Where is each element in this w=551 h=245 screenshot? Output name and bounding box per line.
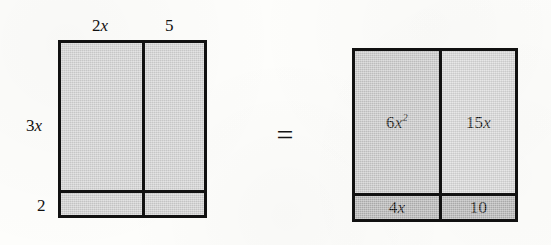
stipple-texture (145, 193, 204, 215)
right-cell-15x: 15x (442, 51, 515, 193)
left-height-label-3x: 3x (26, 117, 42, 134)
left-width-label-5: 5 (165, 17, 174, 34)
right-row-bottom: 4x 10 (355, 193, 515, 219)
right-area-model: 6x2 15x 4x 10 (352, 48, 518, 222)
right-cell-label-4x: 4x (389, 199, 405, 216)
right-cell-6x-squared: 6x2 (355, 51, 442, 193)
left-cell-bottom-right (145, 193, 204, 215)
left-row-top (61, 43, 204, 190)
figure-canvas: 2x 5 3x 2 = 6x2 (0, 0, 551, 245)
right-row-top: 6x2 15x (355, 51, 515, 193)
left-cell-top-right (145, 43, 204, 190)
right-cell-label-6x-squared: 6x2 (386, 114, 408, 131)
left-cell-bottom-left (61, 193, 145, 215)
left-area-model (58, 40, 207, 218)
stipple-texture (61, 193, 142, 215)
equals-sign: = (272, 118, 298, 152)
left-width-label-2x: 2x (92, 17, 108, 34)
stipple-texture (145, 43, 204, 190)
right-cell-4x: 4x (355, 196, 442, 219)
left-height-label-2: 2 (37, 197, 46, 214)
left-row-bottom (61, 190, 204, 215)
stipple-texture (61, 43, 142, 190)
right-cell-label-10: 10 (470, 199, 487, 216)
right-cell-10: 10 (442, 196, 515, 219)
left-cell-top-left (61, 43, 145, 190)
right-cell-label-15x: 15x (466, 114, 491, 131)
